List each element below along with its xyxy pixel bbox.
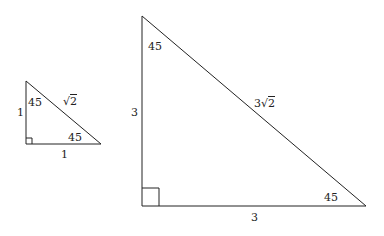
small-angle-right-label: 45 [68, 132, 82, 143]
large-leg-vertical-label: 3 [131, 107, 138, 118]
large-hyp-coef: 3 [254, 97, 261, 110]
small-leg-horizontal-label: 1 [61, 149, 68, 160]
large-right-angle-marker [142, 188, 159, 206]
small-hyp-radicand: 2 [70, 95, 77, 108]
large-hyp-radicand: 2 [268, 97, 275, 110]
large-triangle [142, 16, 366, 206]
large-angle-right-label: 45 [324, 192, 338, 203]
small-angle-top-label: 45 [28, 97, 42, 108]
small-triangle [26, 81, 101, 144]
sqrt-symbol: √ [63, 95, 70, 108]
sqrt-symbol: √ [261, 97, 268, 110]
small-hypotenuse-label: √2 [63, 96, 77, 107]
small-right-angle-marker [26, 138, 32, 144]
large-leg-horizontal-label: 3 [251, 212, 258, 223]
small-leg-vertical-label: 1 [17, 107, 24, 118]
large-hypotenuse-label: 3√2 [254, 98, 275, 109]
large-angle-top-label: 45 [148, 41, 162, 52]
